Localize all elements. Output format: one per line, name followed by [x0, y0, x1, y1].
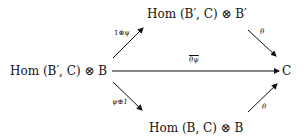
node-top: Hom (B′, C) ⊗ B′	[147, 7, 247, 21]
node-left: Hom (B′, C) ⊗ B	[10, 64, 107, 78]
label-psi-oplus-one: ψ⊕1	[112, 98, 128, 106]
node-bottom: Hom (B, C) ⊗ B	[149, 121, 243, 135]
node-right: C	[282, 64, 291, 78]
label-one-tensor-psi: 1⊗ψ	[114, 29, 130, 37]
label-theta-bottom: θ	[262, 103, 266, 111]
label-theta-top: θ	[260, 28, 264, 36]
label-theta-psi: θψ	[189, 56, 199, 64]
